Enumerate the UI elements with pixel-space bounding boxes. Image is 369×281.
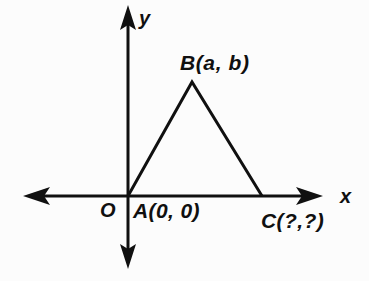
coordinate-diagram: y x B(a, b) O A(0, 0) C(?,?) xyxy=(0,0,369,281)
vertex-c-label: C(?,?) xyxy=(261,210,324,231)
vertex-b-label: B(a, b) xyxy=(180,52,250,73)
y-axis-label: y xyxy=(139,8,150,28)
vertex-a-label: A(0, 0) xyxy=(133,200,200,221)
origin-label: O xyxy=(100,200,116,220)
x-axis-label: x xyxy=(340,186,351,206)
diagram-canvas xyxy=(0,0,369,281)
triangle-abc xyxy=(128,82,262,196)
